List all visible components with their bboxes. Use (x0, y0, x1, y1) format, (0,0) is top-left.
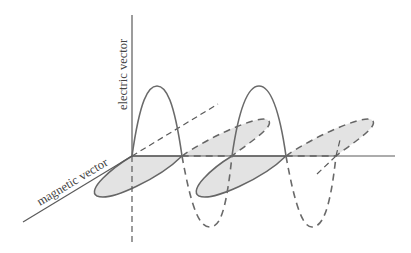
electric-wave-down-2 (286, 156, 336, 227)
em-wave-diagram: electric vector magnetic vector (0, 0, 411, 253)
magnetic-lobe-back-2 (286, 119, 373, 156)
magnetic-lobe-front-2 (196, 156, 286, 197)
magnetic-lobe-front-1 (94, 156, 182, 197)
electric-vector-label: electric vector (116, 38, 130, 110)
electric-wave-up-1 (132, 86, 182, 156)
magnetic-axis-tail (317, 156, 336, 174)
magnetic-lobe-back-1 (182, 119, 269, 156)
